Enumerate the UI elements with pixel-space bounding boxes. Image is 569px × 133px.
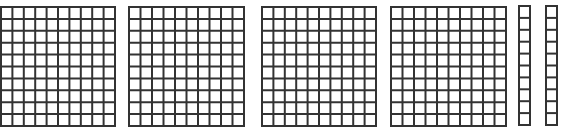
hundred-flat-2: [128, 6, 245, 127]
ten-rod-1: [518, 5, 531, 126]
ten-rod-2: [545, 5, 558, 126]
hundred-flat-3: [261, 6, 377, 127]
hundred-flat-4: [390, 6, 507, 127]
hundred-flat-1: [0, 6, 116, 127]
